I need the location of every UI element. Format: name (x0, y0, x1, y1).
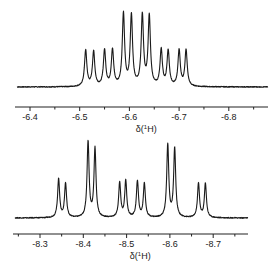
nmr-figure: -6.4-6.5-6.6-6.7-6.8 δ(1H) -8.3-8.4-8.5-… (0, 0, 280, 272)
tick-label: -6.5 (72, 112, 88, 122)
x-axis-title-suffix: H) (141, 251, 151, 261)
x-axis-title: δ(1H) (130, 251, 151, 261)
tick-label: -8.5 (119, 239, 135, 249)
x-axis-tick-labels: -8.3-8.4-8.5-8.6-8.7 (32, 239, 221, 249)
x-axis-title-prefix: δ( (130, 251, 138, 261)
tick-label: -8.3 (32, 239, 48, 249)
tick-label: -8.6 (162, 239, 178, 249)
x-axis-title: δ(1H) (136, 124, 157, 134)
spectrum-trace (17, 11, 268, 87)
x-axis-ticks (30, 107, 254, 111)
x-axis-title-suffix: H) (147, 124, 157, 134)
spectrum-panel-top: -6.4-6.5-6.6-6.7-6.8 δ(1H) (15, 11, 268, 134)
x-axis-tick-labels: -6.4-6.5-6.6-6.7-6.8 (22, 112, 236, 122)
spectrum-trace (15, 140, 248, 218)
tick-label: -6.8 (221, 112, 237, 122)
tick-label: -8.4 (76, 239, 92, 249)
x-axis-ticks (18, 234, 235, 238)
tick-label: -6.4 (22, 112, 38, 122)
tick-label: -6.6 (122, 112, 138, 122)
tick-label: -8.7 (205, 239, 221, 249)
spectrum-panel-bottom: -8.3-8.4-8.5-8.6-8.7 δ(1H) (13, 140, 248, 261)
tick-label: -6.7 (171, 112, 187, 122)
x-axis-title-prefix: δ( (136, 124, 144, 134)
